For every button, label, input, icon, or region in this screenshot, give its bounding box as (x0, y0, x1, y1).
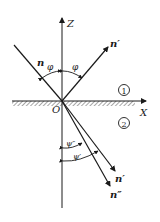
medium-2-label: 2 (122, 120, 127, 129)
refraction-angle-2-label: ψ′ (73, 152, 81, 161)
refraction-angle-1-label: ψ″ (66, 139, 75, 148)
refracted-ray-2-label: n″ (110, 189, 122, 200)
medium-1-label: 1 (122, 87, 127, 96)
x-axis-label: X (139, 107, 148, 118)
origin-label: O (52, 104, 60, 115)
incident-ray (14, 45, 62, 101)
interface-hatch (12, 101, 135, 106)
z-axis-label: Z (66, 18, 75, 29)
incidence-angle-label: φ (47, 62, 54, 72)
reflected-ray (62, 47, 108, 101)
reflection-angle-label: φ (72, 62, 79, 72)
reflection-refraction-diagram: Z X O n n′ n′ n″ φ φ ψ″ ψ′ 1 2 (0, 0, 160, 222)
incident-ray-label: n (37, 57, 44, 68)
angle-arc-reflection (63, 71, 82, 78)
reflected-ray-label: n′ (110, 38, 120, 49)
angle-arc-incidence (42, 71, 61, 78)
refracted-ray-1-label: n′ (115, 173, 125, 184)
